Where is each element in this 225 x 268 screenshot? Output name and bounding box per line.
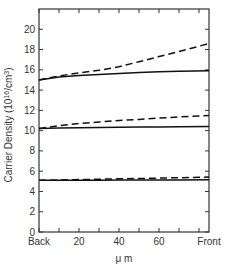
data-series xyxy=(39,44,209,181)
plot-border xyxy=(39,9,209,232)
y-axis-ticks: 02468101214161820 xyxy=(24,24,209,238)
y-tick-label: 12 xyxy=(24,105,36,116)
carrier-density-chart: 02468101214161820 Back204060Front Carrie… xyxy=(0,0,225,268)
x-tick-label: 40 xyxy=(113,236,125,247)
x-tick-label: Back xyxy=(28,236,51,247)
x-tick-label: Front xyxy=(197,236,221,247)
y-tick-label: 18 xyxy=(24,44,36,55)
y-tick-label: 16 xyxy=(24,64,36,75)
y-tick-label: 20 xyxy=(24,24,36,35)
y-tick-label: 8 xyxy=(29,145,35,156)
x-tick-label: 20 xyxy=(73,236,85,247)
x-tick-label: 60 xyxy=(153,236,165,247)
y-tick-label: 10 xyxy=(24,125,36,136)
y-tick-label: 4 xyxy=(29,186,35,197)
y-tick-label: 2 xyxy=(29,206,35,217)
plot-frame xyxy=(39,9,209,232)
y-tick-label: 6 xyxy=(29,166,35,177)
series-mid-solid xyxy=(39,127,209,129)
x-axis-label: μ m xyxy=(116,253,133,264)
y-axis-label: Carrier Density (1016/cm3) xyxy=(3,67,15,182)
y-tick-label: 14 xyxy=(24,85,36,96)
series-high-dashed xyxy=(39,44,209,81)
